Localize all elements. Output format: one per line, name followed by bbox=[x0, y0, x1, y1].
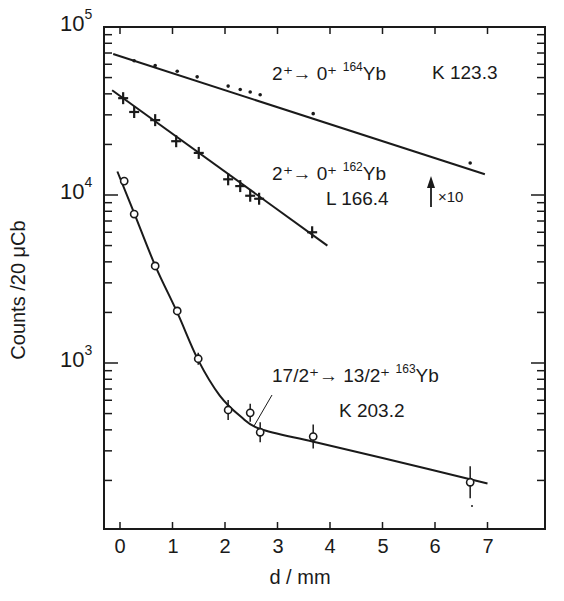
x-tick-6: 6 bbox=[429, 535, 440, 558]
x-tick-4: 4 bbox=[324, 535, 335, 558]
x-tick-3: 3 bbox=[272, 535, 283, 558]
x-tick-2: 2 bbox=[219, 535, 230, 558]
y-tick-1e4: 104 bbox=[60, 178, 92, 205]
y-axis-label: Counts /20 μCb bbox=[7, 220, 30, 359]
x-axis-label: d / mm bbox=[269, 566, 330, 589]
chart-plot bbox=[0, 0, 564, 601]
annotation-graphics bbox=[254, 176, 473, 507]
x-tick-7: 7 bbox=[482, 535, 493, 558]
fit-curves bbox=[112, 54, 487, 483]
scale-factor-note: ×10 bbox=[438, 188, 463, 205]
annotation-162yb-line: L 166.4 bbox=[326, 188, 389, 210]
annotation-162yb: 2⁺→ 0⁺ 162Yb bbox=[272, 162, 386, 185]
annotation-163yb-line: K 203.2 bbox=[339, 400, 405, 422]
data-points bbox=[118, 59, 474, 498]
x-tick-0: 0 bbox=[114, 535, 125, 558]
y-tick-1e5: 105 bbox=[60, 10, 92, 37]
axes-frame bbox=[104, 27, 545, 529]
y-tick-1e3: 103 bbox=[60, 346, 92, 373]
x-tick-5: 5 bbox=[377, 535, 388, 558]
annotation-164yb: 2⁺→ 0⁺ 164Yb bbox=[272, 62, 386, 85]
annotation-163yb: 17/2⁺→ 13/2⁺ 163Yb bbox=[272, 364, 439, 387]
x-tick-1: 1 bbox=[167, 535, 178, 558]
annotation-164yb-line: K 123.3 bbox=[432, 62, 498, 84]
